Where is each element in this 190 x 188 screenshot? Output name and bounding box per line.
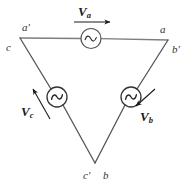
node-label-a: a xyxy=(160,24,166,35)
ac-source-c xyxy=(47,87,67,107)
branch-b-lower-segment xyxy=(95,105,125,163)
node-label-b: b xyxy=(103,170,109,181)
voltage-subscript-vb: b xyxy=(149,115,153,125)
voltage-label-va: Va xyxy=(78,5,91,18)
node-label-b-prime: b' xyxy=(172,44,180,55)
node-label-a-prime: a' xyxy=(22,22,30,33)
branch-c-lower-segment xyxy=(63,105,95,163)
voltage-subscript-va: a xyxy=(87,10,91,20)
branch-b-upper-segment xyxy=(137,40,168,89)
ac-source-a xyxy=(81,29,101,49)
branch-a-right-segment xyxy=(101,39,168,40)
voltage-symbol-va: V xyxy=(78,4,87,19)
triangle-branches xyxy=(20,38,168,163)
branch-c-upper-segment xyxy=(20,38,51,89)
voltage-symbol-vc: V xyxy=(21,104,30,119)
voltage-label-vb: Vb xyxy=(140,110,153,123)
branch-a-left-segment xyxy=(20,38,81,39)
delta-source-diagram: a' c a b' c' b Va Vb Vc xyxy=(0,0,190,188)
node-label-c-prime: c' xyxy=(83,170,90,181)
voltage-subscript-vc: c xyxy=(30,110,34,120)
voltage-label-vc: Vc xyxy=(21,105,33,118)
voltage-symbol-vb: V xyxy=(140,109,149,124)
node-label-c-top: c xyxy=(6,42,11,53)
